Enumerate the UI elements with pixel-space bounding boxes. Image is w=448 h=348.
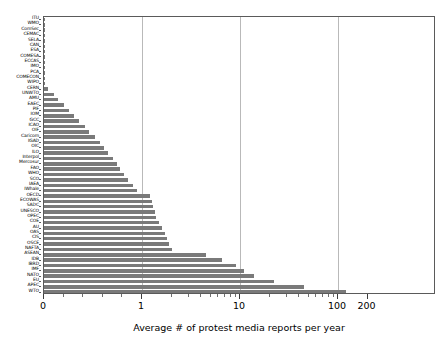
y-tick: [39, 24, 41, 25]
bar-row: [44, 76, 435, 81]
x-minor-tick: [188, 294, 189, 297]
bar-itu: [44, 18, 45, 22]
bar-row: [44, 119, 435, 124]
y-tick: [39, 137, 41, 138]
y-tick: [39, 270, 41, 271]
bar-row: [44, 151, 435, 156]
bar-row: [44, 274, 435, 279]
bar-row: [44, 65, 435, 70]
bar-row: [44, 258, 435, 263]
bar-row: [44, 285, 435, 290]
y-tick: [39, 201, 41, 202]
bar-row: [44, 162, 435, 167]
bar-can: [44, 45, 45, 49]
bar-eaec: [44, 103, 64, 107]
x-tick-label-100: 100: [328, 300, 346, 311]
bar-row: [44, 279, 435, 284]
bar-row: [44, 215, 435, 220]
bar-cern: [44, 87, 48, 91]
bar-eccas: [44, 61, 45, 65]
y-tick: [39, 131, 41, 132]
bar-iwhale: [44, 189, 137, 193]
bar-esa: [44, 50, 45, 54]
bar-eu: [44, 280, 274, 284]
x-tick-label-200: 200: [357, 300, 375, 311]
bar-comesa: [44, 55, 45, 59]
x-minor-tick: [121, 294, 122, 297]
x-tick-1: [141, 294, 142, 299]
bar-unwto: [44, 93, 54, 97]
bar-row: [44, 87, 435, 92]
y-tick: [39, 195, 41, 196]
y-tick: [39, 158, 41, 159]
bar-row: [44, 167, 435, 172]
y-tick: [39, 30, 41, 31]
bar-wipo: [44, 82, 45, 86]
y-tick: [39, 121, 41, 122]
x-minor-tick: [269, 294, 270, 297]
bar-coe: [44, 221, 159, 225]
bar-oecd: [44, 194, 150, 198]
bar-idb: [44, 258, 222, 262]
x-minor-tick: [210, 294, 211, 297]
bar-imf: [44, 269, 244, 273]
bar-ibrd: [44, 264, 236, 268]
y-tick: [39, 67, 41, 68]
bar-ilo: [44, 151, 108, 155]
bar-series: [44, 17, 434, 293]
bar-oic: [44, 146, 104, 150]
bar-row: [44, 135, 435, 140]
bar-cis: [44, 237, 167, 241]
y-tick: [39, 185, 41, 186]
bar-osce: [44, 242, 169, 246]
x-minor-tick: [224, 294, 225, 297]
x-axis: 0110100200: [43, 294, 435, 308]
bar-amu: [44, 98, 58, 102]
bar-row: [44, 92, 435, 97]
y-tick: [39, 163, 41, 164]
bar-oas: [44, 232, 165, 236]
y-tick: [39, 83, 41, 84]
bar-row: [44, 108, 435, 113]
y-tick: [39, 78, 41, 79]
y-tick: [39, 35, 41, 36]
bar-row: [44, 33, 435, 38]
x-minor-tick: [315, 294, 316, 297]
bar-fao: [44, 167, 120, 171]
bar-interpol: [44, 157, 113, 161]
bar-row: [44, 23, 435, 28]
y-tick: [39, 238, 41, 239]
bar-row: [44, 247, 435, 252]
y-tick: [39, 19, 41, 20]
bar-wmo: [44, 23, 45, 27]
bar-row: [44, 263, 435, 268]
y-tick: [39, 244, 41, 245]
y-tick: [39, 212, 41, 213]
y-tick: [39, 40, 41, 41]
bar-row: [44, 124, 435, 129]
bar-sadc: [44, 205, 153, 209]
x-tick-100: [337, 294, 338, 299]
y-tick: [39, 228, 41, 229]
y-tick: [39, 89, 41, 90]
y-tick: [39, 292, 41, 293]
bar-row: [44, 231, 435, 236]
bar-apec: [44, 285, 304, 289]
bar-row: [44, 140, 435, 145]
y-tick: [39, 179, 41, 180]
y-tick: [39, 142, 41, 143]
bar-pca: [44, 71, 45, 75]
bar-row: [44, 114, 435, 119]
bar-row: [44, 188, 435, 193]
x-minor-tick: [217, 294, 218, 297]
bar-imo: [44, 66, 45, 70]
bar-row: [44, 269, 435, 274]
bar-unesco: [44, 210, 155, 214]
x-minor-tick: [328, 294, 329, 297]
y-tick: [39, 105, 41, 106]
bar-igad: [44, 141, 100, 145]
bar-cemac: [44, 34, 45, 38]
x-tick-label-1: 1: [138, 300, 144, 311]
bar-row: [44, 199, 435, 204]
bar-row: [44, 39, 435, 44]
